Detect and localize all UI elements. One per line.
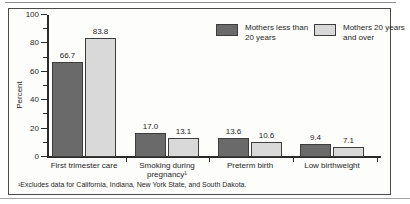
y-minor-tick [43,113,47,114]
y-tick-label: 20 [16,124,39,133]
legend-swatch-light [314,24,336,36]
y-axis-line [47,15,49,158]
legend-label-mothers-20-over: Mothers 20 years and over [343,23,405,44]
y-tick [41,42,47,43]
bar-value-label: 83.8 [76,27,125,36]
x-tick [293,158,294,162]
bar [85,38,116,157]
bar [135,133,166,157]
y-minor-tick [43,142,47,143]
figure-page: { "colors": { "dark": "#6a6a6a", "light"… [0,0,410,204]
y-tick-label: 80 [16,38,39,47]
legend-swatch-dark [216,24,238,36]
y-tick [41,156,47,157]
bar [251,142,282,157]
x-tick [377,158,378,162]
x-tick [126,158,127,162]
bar [168,138,199,157]
footnote: ¹Excludes data for California, Indiana, … [18,181,388,188]
bar [52,62,83,157]
bar-value-label: 10.6 [242,131,291,140]
y-tick [41,71,47,72]
y-tick-label: 60 [16,67,39,76]
y-tick [41,14,47,15]
category-label: Low birthweight [277,161,387,170]
legend-item-mothers-under-20: Mothers less than 20 years [216,23,308,44]
legend-label-mothers-under-20: Mothers less than 20 years [245,23,308,44]
bar-value-label: 13.1 [159,127,208,136]
y-tick-label: 100 [16,10,39,19]
y-minor-tick [43,85,47,86]
legend-item-mothers-20-over: Mothers 20 years and over [314,23,405,44]
bar [218,138,249,157]
bar-value-label: 7.1 [324,136,373,145]
bar [300,144,331,157]
y-tick [41,99,47,100]
y-minor-tick [43,28,47,29]
y-tick-label: 40 [16,95,39,104]
y-tick [41,128,47,129]
y-tick-label: 0 [16,152,39,161]
x-tick [209,158,210,162]
bar [333,147,364,157]
